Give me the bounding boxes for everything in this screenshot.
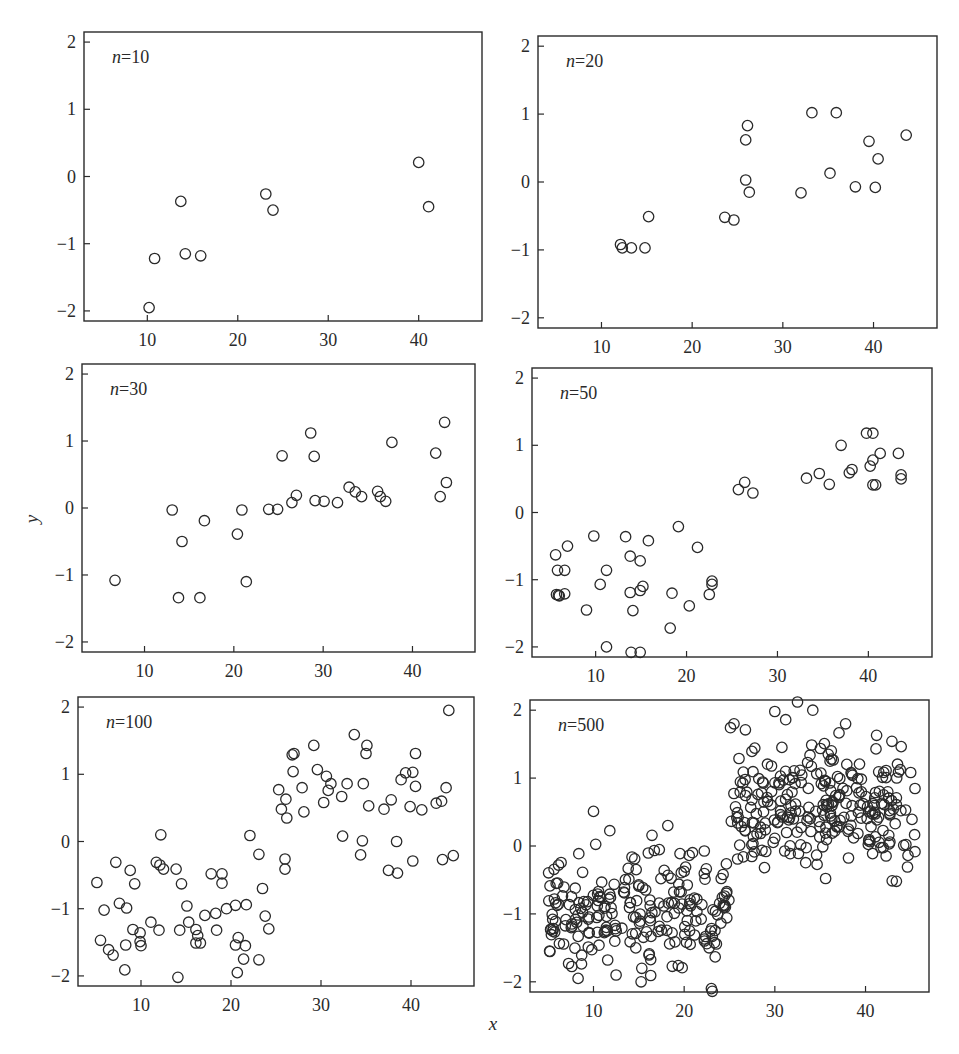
y-tick-label: 2 xyxy=(61,697,70,717)
data-point xyxy=(847,464,857,474)
data-point xyxy=(635,556,645,566)
data-point xyxy=(319,797,329,807)
data-point xyxy=(759,862,769,872)
data-point xyxy=(144,302,154,312)
data-point xyxy=(261,189,271,199)
data-point xyxy=(387,437,397,447)
panels-group: 10203040−2−1012n=1010203040−2−1012n=2010… xyxy=(51,32,937,1021)
data-point xyxy=(687,848,697,858)
data-point xyxy=(358,779,368,789)
panel-n-label: n=500 xyxy=(558,715,604,735)
data-point xyxy=(625,587,635,597)
data-point xyxy=(254,849,264,859)
data-point xyxy=(632,896,642,906)
data-point xyxy=(282,813,292,823)
data-point xyxy=(439,417,449,427)
data-point xyxy=(631,943,641,953)
scatter-panel-n-30: 10203040−2−1012n=30 xyxy=(55,364,475,681)
data-point xyxy=(237,505,247,515)
data-point xyxy=(149,253,159,263)
data-point xyxy=(801,473,811,483)
data-point xyxy=(753,789,763,799)
data-point xyxy=(444,705,454,715)
y-tick-label: −2 xyxy=(503,972,522,992)
data-point xyxy=(121,940,131,950)
data-point xyxy=(864,136,874,146)
data-point xyxy=(326,779,336,789)
x-tick-label: 10 xyxy=(587,666,605,686)
x-tick-label: 20 xyxy=(675,1001,693,1021)
data-point xyxy=(431,448,441,458)
y-axis-label: y xyxy=(21,514,42,525)
data-point xyxy=(562,541,572,551)
data-point xyxy=(611,970,621,980)
data-point xyxy=(868,428,878,438)
scatter-figure: y x 10203040−2−1012n=1010203040−2−1012n=… xyxy=(0,0,959,1054)
data-point xyxy=(892,773,902,783)
data-point xyxy=(907,814,917,824)
data-point xyxy=(232,967,242,977)
y-tick-label: 1 xyxy=(65,431,74,451)
data-point xyxy=(264,924,274,934)
data-point xyxy=(577,867,587,877)
data-point xyxy=(902,862,912,872)
data-points xyxy=(110,417,452,603)
data-point xyxy=(601,642,611,652)
data-point xyxy=(744,187,754,197)
data-point xyxy=(733,484,743,494)
data-point xyxy=(625,551,635,561)
data-point xyxy=(156,830,166,840)
x-tick-label: 30 xyxy=(312,995,330,1015)
scatter-panel-n-50: 10203040−2−1012n=50 xyxy=(505,368,932,686)
y-tick-label: 2 xyxy=(67,32,76,52)
data-point xyxy=(887,736,897,746)
data-point xyxy=(623,863,633,873)
data-point xyxy=(738,767,748,777)
data-point xyxy=(342,779,352,789)
x-tick-label: 20 xyxy=(678,666,696,686)
data-point xyxy=(871,744,881,754)
y-tick-label: −1 xyxy=(57,234,76,254)
x-tick-label: 30 xyxy=(314,661,332,681)
data-point xyxy=(843,853,853,863)
y-tick-label: 1 xyxy=(515,435,524,455)
data-point xyxy=(230,900,240,910)
data-point xyxy=(573,973,583,983)
data-point xyxy=(299,807,309,817)
data-point xyxy=(364,801,374,811)
data-point xyxy=(673,521,683,531)
data-point xyxy=(643,848,653,858)
data-point xyxy=(875,448,885,458)
panel-n-label: n=50 xyxy=(560,383,597,403)
data-point xyxy=(910,783,920,793)
y-tick-label: 0 xyxy=(67,167,76,187)
x-tick-label: 20 xyxy=(225,661,243,681)
data-point xyxy=(281,794,291,804)
data-point xyxy=(120,965,130,975)
data-point xyxy=(114,898,124,908)
data-points xyxy=(550,428,906,658)
data-point xyxy=(448,850,458,860)
y-tick-label: 2 xyxy=(521,36,530,56)
data-point xyxy=(280,854,290,864)
data-point xyxy=(175,925,185,935)
data-point xyxy=(865,461,875,471)
plot-frame xyxy=(84,32,482,321)
y-tick-label: 1 xyxy=(61,764,70,784)
x-tick-label: 40 xyxy=(859,666,877,686)
data-point xyxy=(176,196,186,206)
y-tick-label: 0 xyxy=(521,172,530,192)
data-point xyxy=(735,840,745,850)
data-point xyxy=(167,505,177,515)
data-point xyxy=(573,931,583,941)
y-tick-label: −2 xyxy=(57,301,76,321)
data-point xyxy=(741,135,751,145)
data-point xyxy=(173,972,183,982)
y-tick-label: 2 xyxy=(513,700,522,720)
data-point xyxy=(408,856,418,866)
x-tick-label: 10 xyxy=(592,337,610,357)
y-tick-label: 0 xyxy=(515,503,524,523)
data-point xyxy=(646,970,656,980)
data-point xyxy=(173,593,183,603)
data-point xyxy=(121,903,131,913)
